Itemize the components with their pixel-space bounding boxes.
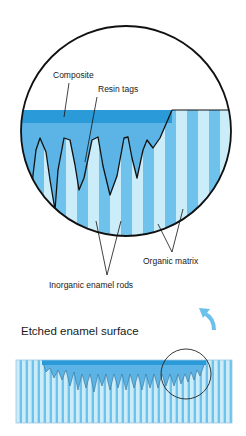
magnified-view [0, 0, 246, 250]
label-organic-matrix: Organic matrix [143, 256, 198, 266]
curved-arrow-icon [199, 308, 214, 330]
etched-surface-block [16, 360, 232, 423]
label-inorganic-rods: Inorganic enamel rods [49, 280, 133, 290]
label-resin-tags: Resin tags [98, 84, 138, 94]
composite-layer [0, 110, 172, 123]
label-composite: Composite [53, 70, 94, 80]
label-etched-surface: Etched enamel surface [21, 325, 139, 337]
diagram-canvas [0, 0, 246, 436]
